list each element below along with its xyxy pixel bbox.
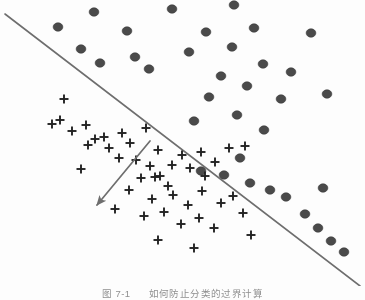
- scatter-point-circle: [245, 179, 255, 187]
- scatter-point-circle: [144, 65, 154, 73]
- figure-caption: 图 7-1 如何防止分类的过界计算: [0, 286, 365, 300]
- scatter-point-circle: [339, 248, 349, 256]
- scatter-point-circle: [306, 29, 316, 37]
- scatter-point-circle: [259, 126, 269, 134]
- scatter-point-circle: [216, 72, 226, 80]
- scatter-point-circle: [322, 90, 332, 98]
- scatter-point-circle: [201, 28, 211, 36]
- scatter-point-circle: [281, 193, 291, 201]
- figure-caption-text: 图 7-1 如何防止分类的过界计算: [102, 287, 263, 300]
- scatter-point-circle: [232, 111, 242, 119]
- figure-root: 图 7-1 如何防止分类的过界计算: [0, 0, 365, 300]
- scatter-point-circle: [130, 53, 140, 61]
- scatter-point-circle: [122, 27, 132, 35]
- scatter-point-circle: [326, 237, 336, 245]
- scatter-plot-svg: [0, 0, 365, 286]
- scatter-point-circle: [313, 224, 323, 232]
- caption-title: 如何防止分类的过界计算: [149, 287, 263, 300]
- scatter-point-circle: [167, 5, 177, 13]
- scatter-point-circle: [286, 68, 296, 76]
- scatter-point-circle: [95, 59, 105, 67]
- scatter-point-circle: [229, 1, 239, 9]
- scatter-point-circle: [265, 186, 275, 194]
- scatter-point-circle: [204, 93, 214, 101]
- caption-label: 图 7-1: [102, 287, 130, 300]
- scatter-point-circle: [258, 60, 268, 68]
- scatter-point-circle: [300, 210, 310, 218]
- scatter-point-circle: [235, 154, 245, 162]
- scatter-point-circle: [249, 24, 259, 32]
- scatter-point-circle: [184, 48, 194, 56]
- scatter-point-circle: [219, 171, 229, 179]
- scatter-point-circle: [227, 43, 237, 51]
- plot-background: [0, 0, 365, 286]
- scatter-plot-area: [0, 0, 365, 286]
- scatter-point-circle: [189, 117, 199, 125]
- scatter-point-circle: [276, 95, 286, 103]
- scatter-point-circle: [53, 23, 63, 31]
- scatter-point-circle: [242, 82, 252, 90]
- scatter-point-circle: [76, 45, 86, 53]
- scatter-point-circle: [89, 8, 99, 16]
- scatter-point-circle: [318, 184, 328, 192]
